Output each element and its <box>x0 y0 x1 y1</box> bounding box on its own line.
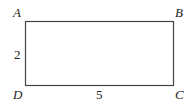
rectangle-abcd <box>26 22 174 86</box>
side-dc-length: 5 <box>96 87 103 102</box>
vertex-c-label: C <box>175 87 184 102</box>
vertex-d-label: D <box>12 87 23 102</box>
vertex-a-label: A <box>12 5 21 20</box>
vertex-b-label: B <box>175 5 183 20</box>
side-ad-length: 2 <box>14 47 21 62</box>
rectangle-diagram: A B C D 2 5 <box>0 0 190 107</box>
